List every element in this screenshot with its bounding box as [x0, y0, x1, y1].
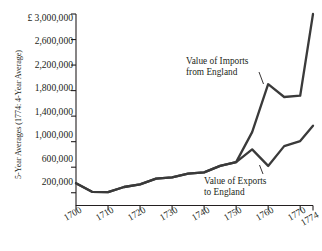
- series-line-imports: [76, 14, 313, 192]
- annotation-imports-line1: Value of Imports: [186, 56, 248, 67]
- annotation-exports: Value of Exports to England: [204, 176, 266, 198]
- y-axis-ticks: [71, 14, 76, 193]
- chart-container: 5-Year Averages (1774: 4-Year Average) £…: [0, 0, 322, 251]
- axis-lines: [76, 14, 313, 206]
- plot-area: [0, 0, 322, 251]
- annotation-imports-line2: from England: [186, 67, 248, 78]
- annotation-exports-line2: to England: [204, 187, 266, 198]
- data-series-lines: [76, 14, 313, 192]
- series-line-exports: [76, 126, 313, 192]
- annotation-imports: Value of Imports from England: [186, 56, 248, 78]
- x-axis-ticks: [76, 206, 313, 211]
- annotation-exports-line1: Value of Exports: [204, 176, 266, 187]
